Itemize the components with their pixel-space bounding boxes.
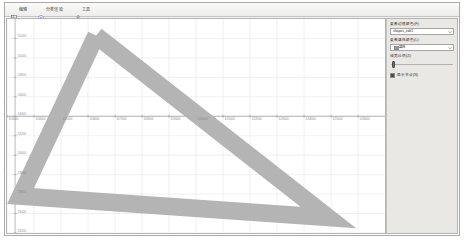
field-line-width-scale: 线宽比例(Z): [390, 54, 454, 69]
palette-icon [38, 7, 44, 13]
show-nodes-checkbox[interactable] [390, 73, 395, 78]
show-nodes-checkbox-row[interactable]: 显示节点(N) [390, 73, 454, 78]
chevron-down-icon[interactable] [446, 29, 453, 34]
svg-text:25000: 25000 [18, 54, 27, 58]
svg-text:24600: 24600 [18, 93, 27, 97]
properties-panel: 要素边框颜色(F): shapes_edit1 要素填充颜色(L): 填充 [386, 18, 458, 234]
toolbar-item-tools[interactable]: 工具 [72, 4, 92, 15]
svg-text:114000: 114000 [35, 117, 45, 121]
svg-text:115000: 115000 [62, 117, 72, 121]
svg-text:117000: 117000 [116, 117, 126, 121]
grid-icon [11, 7, 17, 13]
field-border-color-label: 要素边框颜色(F): [390, 22, 454, 27]
svg-text:113000: 113000 [8, 117, 18, 121]
border-color-combobox[interactable]: shapes_edit1 [390, 28, 454, 35]
toolbar-item-edit[interactable]: 编辑 [9, 4, 29, 15]
toolbar-item-classify-render[interactable]: 分类渲染 [36, 4, 64, 15]
svg-text:121000: 121000 [224, 117, 235, 121]
svg-text:23800: 23800 [18, 171, 27, 175]
main-area: 1130001140001150001160001170001180001190… [5, 17, 459, 237]
svg-text:23400: 23400 [18, 210, 27, 214]
svg-text:24000: 24000 [18, 151, 27, 155]
svg-text:24200: 24200 [18, 132, 27, 136]
slider-track[interactable] [391, 64, 453, 65]
show-nodes-label: 显示节点(N) [397, 73, 418, 78]
svg-text:125000: 125000 [332, 117, 343, 121]
fill-color-value: 填充 [399, 45, 446, 50]
svg-text:120000: 120000 [197, 117, 208, 121]
fill-color-combobox[interactable]: 填充 [390, 44, 454, 51]
chart-panel[interactable]: 1130001140001150001160001170001180001190… [6, 18, 386, 234]
svg-text:126000: 126000 [359, 117, 370, 121]
svg-text:24800: 24800 [18, 73, 27, 77]
chart-plot[interactable]: 1130001140001150001160001170001180001190… [7, 19, 385, 233]
line-width-scale-label: 线宽比例(Z): [390, 54, 454, 59]
svg-text:118000: 118000 [143, 117, 153, 121]
field-fill-color: 要素填充颜色(L): 填充 [390, 38, 454, 51]
toolbar-item-classify-render-label: 分类渲染 [46, 7, 62, 12]
svg-text:25200: 25200 [18, 34, 27, 38]
svg-text:116000: 116000 [89, 117, 99, 121]
chevron-down-icon[interactable] [446, 45, 453, 50]
svg-text:122000: 122000 [251, 117, 262, 121]
svg-text:23600: 23600 [18, 190, 27, 194]
application-window: 编辑 分类渲染 工具 [4, 2, 460, 236]
svg-text:119000: 119000 [170, 117, 180, 121]
svg-text:123000: 123000 [278, 117, 289, 121]
svg-text:24400: 24400 [18, 112, 27, 116]
svg-text:23200: 23200 [18, 229, 27, 233]
toolbar-item-tools-label: 工具 [82, 7, 90, 12]
border-color-value: shapes_edit1 [393, 29, 446, 34]
wrench-icon [74, 7, 80, 13]
field-border-color: 要素边框颜色(F): shapes_edit1 [390, 22, 454, 35]
field-fill-color-label: 要素填充颜色(L): [390, 38, 454, 43]
toolbar: 编辑 分类渲染 工具 [5, 3, 459, 17]
toolbar-item-edit-label: 编辑 [19, 7, 27, 12]
line-width-slider[interactable] [390, 60, 454, 69]
slider-handle[interactable] [392, 61, 395, 68]
svg-text:124000: 124000 [305, 117, 316, 121]
